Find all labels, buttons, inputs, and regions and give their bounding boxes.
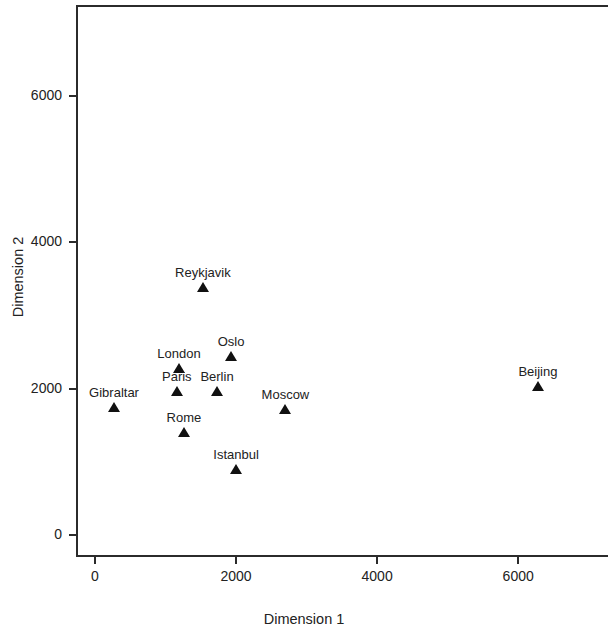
triangle-marker-icon [178,427,190,437]
x-axis-tick-label: 0 [65,568,125,584]
scatter-plot-figure: 02000400060000200040006000ReykjavikOsloL… [0,0,608,637]
x-axis-tick [376,557,378,564]
x-axis-tick-label: 6000 [488,568,548,584]
triangle-marker-icon [171,386,183,396]
triangle-marker-icon [108,402,120,412]
y-axis-tick-label: 0 [0,526,62,542]
y-axis-tick [69,241,77,243]
x-axis-tick-label: 4000 [347,568,407,584]
data-point-label: Rome [167,410,202,425]
y-axis-tick-label: 2000 [0,380,62,396]
triangle-marker-icon [532,381,544,391]
triangle-marker-icon [211,386,223,396]
triangle-marker-icon [197,282,209,292]
x-axis-title: Dimension 1 [0,611,608,627]
data-point-label: Moscow [262,387,310,402]
data-point-label: Beijing [518,364,557,379]
triangle-marker-icon [279,404,291,414]
data-point-label: London [157,346,200,361]
data-point-label: Gibraltar [89,385,139,400]
triangle-marker-icon [230,464,242,474]
data-point-label: Berlin [200,369,233,384]
data-point-label: Istanbul [213,447,259,462]
x-axis-tick-label: 2000 [206,568,266,584]
y-axis-tick [69,534,77,536]
x-axis-tick [517,557,519,564]
data-point-label: Paris [162,369,192,384]
y-axis-tick-label: 6000 [0,87,62,103]
y-axis-tick [69,95,77,97]
data-point-label: Reykjavik [175,265,231,280]
y-axis-tick [69,388,77,390]
data-point-label: Oslo [218,334,245,349]
x-axis-tick [235,557,237,564]
triangle-marker-icon [225,351,237,361]
plot-area: 02000400060000200040006000ReykjavikOsloL… [0,0,608,637]
x-axis-tick [94,557,96,564]
y-axis-title: Dimension 2 [10,197,26,357]
